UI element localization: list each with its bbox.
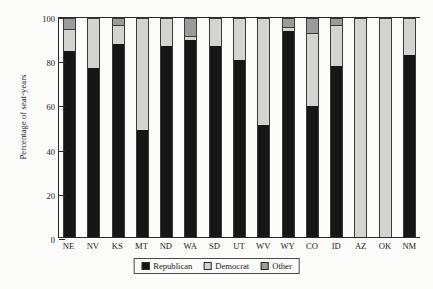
bar-segment-nd-republican	[161, 46, 172, 237]
bar-column-nv	[86, 18, 101, 237]
bar-segment-ut-democrat	[234, 18, 245, 60]
y-tick-80: 80	[59, 62, 65, 63]
bar-segment-mt-democrat	[137, 18, 148, 130]
bar-segment-id-democrat	[331, 25, 342, 67]
bar-ok	[379, 18, 392, 237]
bar-mt	[136, 18, 149, 237]
bar-segment-az-democrat	[355, 18, 366, 237]
bar-column-co	[305, 18, 320, 237]
x-tick-label-az: AZ	[353, 241, 368, 251]
legend-label-democrat: Democrat	[215, 261, 249, 271]
bar-nd	[160, 18, 173, 237]
y-axis-title: Percentage of seat-years	[18, 22, 28, 212]
y-tick-label-60: 60	[47, 102, 56, 112]
x-tick-label-ok: OK	[377, 241, 392, 251]
y-tick-20: 20	[59, 195, 65, 196]
bar-column-ks	[111, 18, 126, 237]
y-tick-100: 100	[59, 18, 65, 19]
x-tick-label-sd: SD	[207, 241, 222, 251]
bar-segment-sd-republican	[210, 46, 221, 237]
legend-item-other: Other	[260, 261, 292, 271]
x-tick-label-mt: MT	[134, 241, 149, 251]
bar-segment-nm-republican	[404, 55, 415, 237]
bar-segment-wv-democrat	[258, 18, 269, 125]
bar-segment-co-other	[307, 18, 318, 33]
bar-wy	[282, 18, 295, 237]
bar-column-wa	[183, 18, 198, 237]
bar-segment-wv-republican	[258, 125, 269, 237]
bar-segment-wy-republican	[283, 31, 294, 237]
bar-column-ne	[62, 18, 77, 237]
stacked-bar-chart: Percentage of seat-years 020406080100 NE…	[0, 0, 433, 289]
legend-label-republican: Republican	[153, 261, 192, 271]
x-tick-label-wa: WA	[183, 241, 198, 251]
bar-segment-ne-other	[64, 18, 75, 29]
bar-sd	[209, 18, 222, 237]
x-axis-labels: NENVKSMTNDWASDUTWVWYCOIDAZOKNM	[58, 241, 420, 251]
bar-column-nd	[159, 18, 174, 237]
bar-wa	[184, 18, 197, 237]
bar-column-az	[353, 18, 368, 237]
bar-wv	[257, 18, 270, 237]
bar-column-wv	[256, 18, 271, 237]
bar-ks	[112, 18, 125, 237]
bar-column-id	[329, 18, 344, 237]
y-tick-label-20: 20	[47, 191, 56, 201]
x-tick-label-id: ID	[329, 241, 344, 251]
chart-legend: RepublicanDemocratOther	[133, 258, 300, 274]
bar-segment-wa-other	[185, 18, 196, 36]
legend-swatch-other-icon	[260, 262, 268, 270]
bar-segment-ks-democrat	[113, 25, 124, 45]
bar-co	[306, 18, 319, 237]
bar-segment-ks-other	[113, 18, 124, 25]
bar-column-sd	[208, 18, 223, 237]
bar-segment-sd-democrat	[210, 18, 221, 46]
bar-segment-co-democrat	[307, 33, 318, 105]
x-tick-label-wv: WV	[256, 241, 271, 251]
legend-label-other: Other	[272, 261, 292, 271]
x-tick-label-nd: ND	[158, 241, 173, 251]
bar-column-ok	[378, 18, 393, 237]
bar-nv	[87, 18, 100, 237]
x-tick-label-co: CO	[304, 241, 319, 251]
bar-column-ut	[232, 18, 247, 237]
bar-column-wy	[281, 18, 296, 237]
bar-segment-ok-democrat	[380, 18, 391, 237]
x-tick-label-nv: NV	[85, 241, 100, 251]
legend-swatch-democrat-icon	[203, 262, 211, 270]
y-tick-label-40: 40	[47, 147, 56, 157]
bar-segment-ut-republican	[234, 60, 245, 237]
bar-column-nm	[402, 18, 417, 237]
bar-segment-id-other	[331, 18, 342, 25]
bar-segment-ks-republican	[113, 44, 124, 237]
y-tick-60: 60	[59, 106, 65, 107]
bar-nm	[403, 18, 416, 237]
y-tick-label-0: 0	[51, 235, 55, 245]
bar-segment-mt-republican	[137, 130, 148, 237]
bar-segment-id-republican	[331, 66, 342, 237]
y-tick-40: 40	[59, 151, 65, 152]
bar-id	[330, 18, 343, 237]
bar-ut	[233, 18, 246, 237]
y-tick-0: 0	[59, 239, 65, 240]
x-tick-label-ne: NE	[61, 241, 76, 251]
bar-segment-nv-democrat	[88, 18, 99, 68]
bar-az	[354, 18, 367, 237]
y-tick-label-100: 100	[42, 14, 55, 24]
bar-segment-nv-republican	[88, 68, 99, 237]
legend-item-republican: Republican	[141, 261, 192, 271]
y-tick-label-80: 80	[47, 58, 56, 68]
bar-segment-ne-republican	[64, 51, 75, 237]
bar-segment-wy-other	[283, 18, 294, 27]
x-tick-label-nm: NM	[402, 241, 417, 251]
bar-segment-wa-republican	[185, 40, 196, 237]
bars-container	[59, 18, 420, 237]
x-tick-label-wy: WY	[280, 241, 295, 251]
bar-segment-co-republican	[307, 106, 318, 237]
bar-column-mt	[135, 18, 150, 237]
bar-ne	[63, 18, 76, 237]
bar-segment-ne-democrat	[64, 29, 75, 51]
legend-item-democrat: Democrat	[203, 261, 249, 271]
bar-segment-nm-democrat	[404, 18, 415, 55]
x-tick-label-ut: UT	[231, 241, 246, 251]
